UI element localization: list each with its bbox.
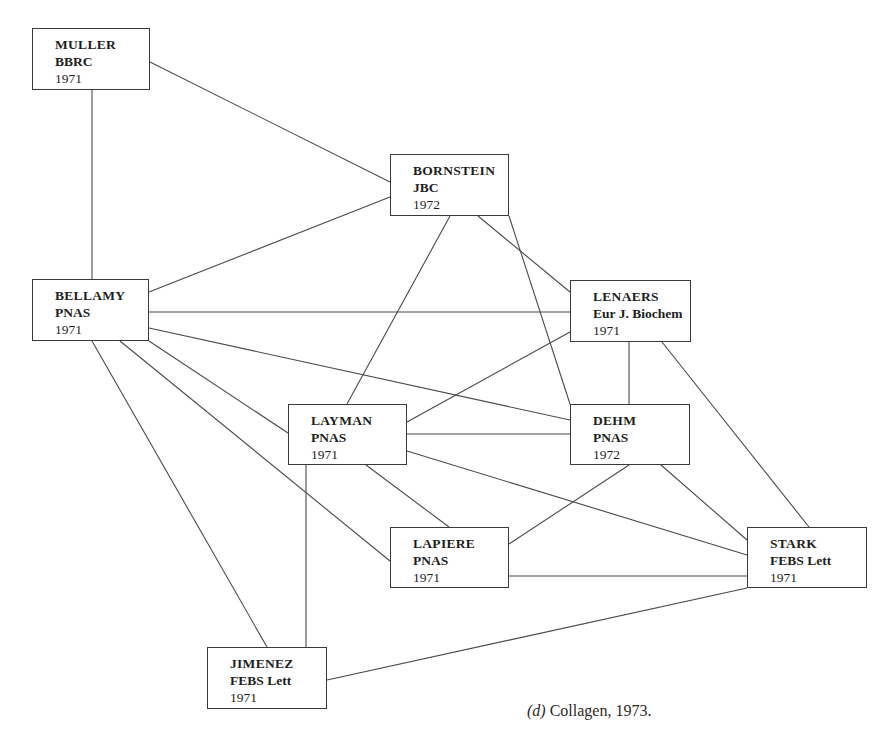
citation-edges	[0, 0, 890, 750]
edge-stark-jimenez	[327, 588, 747, 680]
node-journal: PNAS	[593, 429, 689, 446]
caption-text: Collagen, 1973.	[550, 702, 652, 719]
node-layman: LAYMANPNAS1971	[288, 404, 407, 465]
node-year: 1971	[413, 569, 508, 586]
node-year: 1972	[413, 196, 508, 213]
node-author: STARK	[770, 535, 866, 552]
edge-layman-lapiere	[366, 465, 449, 527]
figure-caption: (d) Collagen, 1973.	[527, 702, 651, 720]
node-journal: PNAS	[311, 429, 406, 446]
node-bornstein: BORNSTEINJBC1972	[390, 154, 509, 216]
node-year: 1971	[55, 321, 148, 338]
edge-bornstein-lenaers	[478, 216, 570, 292]
edge-dehm-stark	[661, 465, 747, 540]
edge-lenaers-layman	[407, 332, 570, 422]
node-journal: PNAS	[413, 552, 508, 569]
node-author: LAPIERE	[413, 535, 508, 552]
node-lenaers: LENAERSEur J. Biochem1971	[570, 280, 691, 342]
node-author: LAYMAN	[311, 412, 406, 429]
node-journal: FEBS Lett	[770, 552, 866, 569]
node-bellamy: BELLAMYPNAS1971	[32, 279, 149, 341]
edge-bellamy-layman	[149, 341, 288, 433]
node-year: 1971	[593, 322, 690, 339]
node-year: 1971	[55, 70, 149, 87]
node-author: MULLER	[55, 36, 149, 53]
node-journal: JBC	[413, 179, 508, 196]
node-year: 1971	[230, 689, 326, 706]
edge-muller-bornstein	[150, 62, 390, 182]
node-dehm: DEHMPNAS1972	[570, 404, 690, 465]
edge-bornstein-bellamy	[149, 197, 390, 292]
edge-dehm-lapiere	[509, 465, 629, 544]
node-author: BELLAMY	[55, 287, 148, 304]
node-lapiere: LAPIEREPNAS1971	[390, 527, 509, 588]
node-author: DEHM	[593, 412, 689, 429]
node-author: BORNSTEIN	[413, 162, 508, 179]
node-journal: FEBS Lett	[230, 672, 326, 689]
node-stark: STARKFEBS Lett1971	[747, 527, 867, 588]
caption-label: (d)	[527, 702, 546, 719]
node-year: 1971	[311, 446, 406, 463]
node-muller: MULLERBBRC1971	[32, 28, 150, 90]
node-year: 1971	[770, 569, 866, 586]
node-journal: PNAS	[55, 304, 148, 321]
node-jimenez: JIMENEZFEBS Lett1971	[207, 647, 327, 709]
node-year: 1972	[593, 446, 689, 463]
node-journal: Eur J. Biochem	[593, 305, 690, 322]
edge-bornstein-dehm	[509, 216, 570, 404]
node-author: LENAERS	[593, 288, 690, 305]
node-journal: BBRC	[55, 53, 149, 70]
edge-bellamy-jimenez	[92, 341, 267, 647]
edge-bornstein-layman	[347, 216, 450, 404]
node-author: JIMENEZ	[230, 655, 326, 672]
